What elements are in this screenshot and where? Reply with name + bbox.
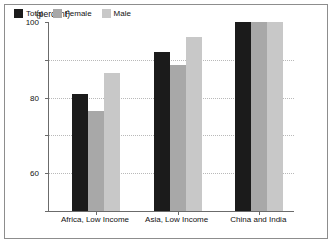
legend-item-female[interactable]: Female <box>53 9 92 18</box>
legend-swatch-icon <box>14 9 23 18</box>
bar[interactable] <box>267 22 283 211</box>
bar[interactable] <box>170 65 186 211</box>
legend-swatch-icon <box>102 9 111 18</box>
y-tick-mark: 60 <box>45 98 49 99</box>
y-tick-mark: 80 <box>45 60 49 61</box>
legend-item-label: Male <box>114 10 131 18</box>
legend-item-total[interactable]: Total <box>14 9 43 18</box>
legend-item-label: Female <box>65 10 92 18</box>
legend-item-label: Total <box>26 10 43 18</box>
legend-item-male[interactable]: Male <box>102 9 131 18</box>
y-tick-mark: 100 <box>45 22 49 23</box>
bar[interactable] <box>186 37 202 211</box>
plot-area: 020406080100 <box>48 22 294 212</box>
bar[interactable] <box>154 52 170 211</box>
x-axis-category-label: Africa, Low Income <box>61 216 129 224</box>
chart-figure: (percent) TotalFemaleMale 020406080100 A… <box>0 0 333 244</box>
bar[interactable] <box>88 111 104 211</box>
bar[interactable] <box>251 22 267 211</box>
y-tick-mark: 0 <box>45 211 49 212</box>
x-axis-category-label: China and India <box>230 216 286 224</box>
bar[interactable] <box>104 73 120 211</box>
y-tick-mark: 20 <box>45 173 49 174</box>
y-tick-mark: 40 <box>45 135 49 136</box>
legend-swatch-icon <box>53 9 62 18</box>
chart-legend: TotalFemaleMale <box>14 9 131 18</box>
bar[interactable] <box>235 22 251 211</box>
y-tick-label: 60 <box>30 170 39 178</box>
y-tick-label: 80 <box>30 95 39 103</box>
bar[interactable] <box>72 94 88 211</box>
x-axis-category-label: Asia, Low Income <box>145 216 208 224</box>
y-tick-label: 100 <box>26 19 39 27</box>
